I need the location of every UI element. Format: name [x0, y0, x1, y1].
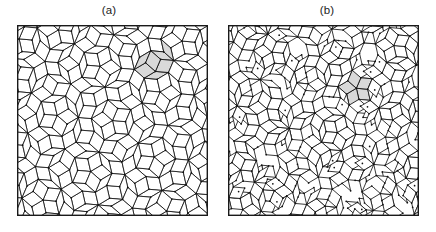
tiling-vertex-dot — [95, 191, 97, 193]
tiling-vertex-dot — [78, 64, 80, 66]
tiling-vertex-dot — [239, 116, 241, 118]
panel-a: (a) — [0, 0, 218, 232]
tiling-vertex-dot — [342, 47, 344, 49]
tiling-vertex-dot — [70, 83, 72, 85]
tiling-vertex-dot — [113, 34, 115, 36]
tiling-vertex-dot — [344, 115, 346, 117]
tiling-vertex-dot — [265, 154, 267, 156]
tiling-vertex-dot — [302, 140, 304, 142]
tiling-vertex-dot — [368, 113, 370, 115]
tiling-vertex-dot — [380, 193, 382, 195]
tiling-vertex-dot — [101, 164, 103, 166]
tiling-vertex-dot — [48, 167, 50, 169]
tiling-vertex-dot — [389, 108, 391, 110]
tiling-vertex-dot — [400, 127, 402, 129]
tiling-vertex-dot — [292, 93, 294, 95]
tiling-vertex-dot — [286, 149, 288, 151]
tiling-vertex-dot — [291, 60, 293, 62]
tiling-vertex-dot — [269, 200, 271, 202]
tiling-vertex-dot — [351, 37, 353, 39]
tiling-vertex-dot — [296, 181, 298, 183]
tiling-vertex-dot — [382, 186, 384, 188]
tiling-vertex-dot — [134, 182, 136, 184]
tiling-vertex-dot — [180, 126, 182, 128]
tiling-vertex-dot — [375, 142, 377, 144]
tiling-vertex-dot — [412, 206, 414, 208]
tiling-vertex-dot — [285, 63, 287, 65]
tiling-vertex-dot — [296, 82, 298, 84]
tiling-vertex-dot — [351, 69, 353, 71]
tiling-vertex-dot — [103, 139, 105, 141]
tiling-vertex-dot — [151, 143, 153, 145]
tiling-vertex-dot — [115, 80, 117, 82]
tiling-vertex-dot — [339, 64, 341, 66]
tiling-vertex-dot — [199, 82, 201, 84]
tiling-vertex-dot — [120, 100, 122, 102]
tiling-vertex-dot — [155, 71, 157, 73]
tiling-vertex-dot — [295, 58, 297, 60]
tiling-vertex-dot — [258, 199, 260, 201]
tiling-vertex-dot — [185, 146, 187, 148]
tiling-vertex-dot — [369, 146, 371, 148]
tiling-vertex-dot — [242, 209, 244, 211]
tiling-vertex-dot — [60, 42, 62, 44]
tiling-vertex-dot — [196, 107, 198, 109]
tiling-vertex-dot — [411, 75, 413, 77]
tiling-vertex-dot — [58, 213, 60, 215]
tiling-vertex-dot — [175, 105, 177, 107]
tiling-vertex-dot — [410, 121, 412, 123]
panel-a-tiling — [17, 25, 208, 216]
tiling-vertex-dot — [126, 35, 128, 37]
tiling-vertex-dot — [169, 100, 171, 102]
tiling-vertex-dot — [347, 80, 349, 82]
tiling-vertex-dot — [292, 191, 294, 193]
tiling-vertex-dot — [34, 52, 36, 54]
tiling-vertex-dot — [393, 205, 395, 207]
tiling-vertex-dot — [265, 182, 267, 184]
tiling-vertex-dot — [350, 190, 352, 192]
tiling-vertex-dot — [365, 209, 367, 211]
tiling-vertex-dot — [271, 51, 273, 53]
tiling-vertex-dot — [389, 126, 391, 128]
tiling-vertex-dot — [303, 193, 305, 195]
tiling-vertex-dot — [24, 210, 26, 212]
tiling-vertex-dot — [278, 34, 280, 36]
tiling-vertex-dot — [166, 210, 168, 212]
tiling-vertex-dot — [177, 80, 179, 82]
tiling-vertex-dot — [346, 126, 348, 128]
tiling-vertex-dot — [300, 128, 302, 130]
tiling-vertex-dot — [387, 176, 389, 178]
tiling-vertex-dot — [270, 97, 272, 99]
tiling-vertex-dot — [160, 58, 162, 60]
tiling-vertex-dot — [83, 105, 85, 107]
tiling-vertex-dot — [399, 148, 401, 150]
tiling-vertex-dot — [164, 112, 166, 114]
tiling-vertex-dot — [318, 176, 320, 178]
tiling-vertex-dot — [340, 51, 342, 53]
tiling-vertex-dot — [282, 197, 284, 199]
tiling-vertex-dot — [362, 163, 364, 165]
tiling-vertex-dot — [173, 60, 175, 62]
tiling-vertex-dot — [305, 90, 307, 92]
tiling-vertex-dot — [230, 76, 232, 78]
tiling-vertex-dot — [86, 64, 88, 66]
tiling-vertex-dot — [358, 99, 360, 101]
tiling-vertex-dot — [328, 63, 330, 65]
tiling-vertex-dot — [389, 27, 391, 29]
tiling-vertex-dot — [258, 171, 260, 173]
tiling-vertex-dot — [244, 159, 246, 161]
tiling-vertex-dot — [233, 41, 235, 43]
tiling-vertex-dot — [72, 182, 74, 184]
tiling-vertex-dot — [367, 106, 369, 108]
tiling-vertex-dot — [381, 200, 383, 202]
tiling-vertex-dot — [267, 33, 269, 35]
tiling-vertex-dot — [247, 124, 249, 126]
tiling-vertex-dot — [262, 44, 264, 46]
tiling-vertex-dot — [191, 172, 193, 174]
tiling-vertex-dot — [314, 112, 316, 114]
tiling-vertex-dot — [274, 190, 276, 192]
tiling-vertex-dot — [312, 101, 314, 103]
tiling-vertex-dot — [279, 166, 281, 168]
tiling-vertex-dot — [322, 166, 324, 168]
tiling-vertex-dot — [371, 78, 373, 80]
